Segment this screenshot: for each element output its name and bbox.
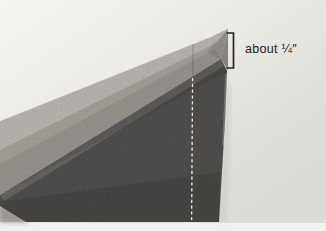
measurement-label: about ¼″ [245,42,297,56]
book-photo-figure: about ¼″ [0,0,326,231]
binding-corner-photo [0,0,326,231]
